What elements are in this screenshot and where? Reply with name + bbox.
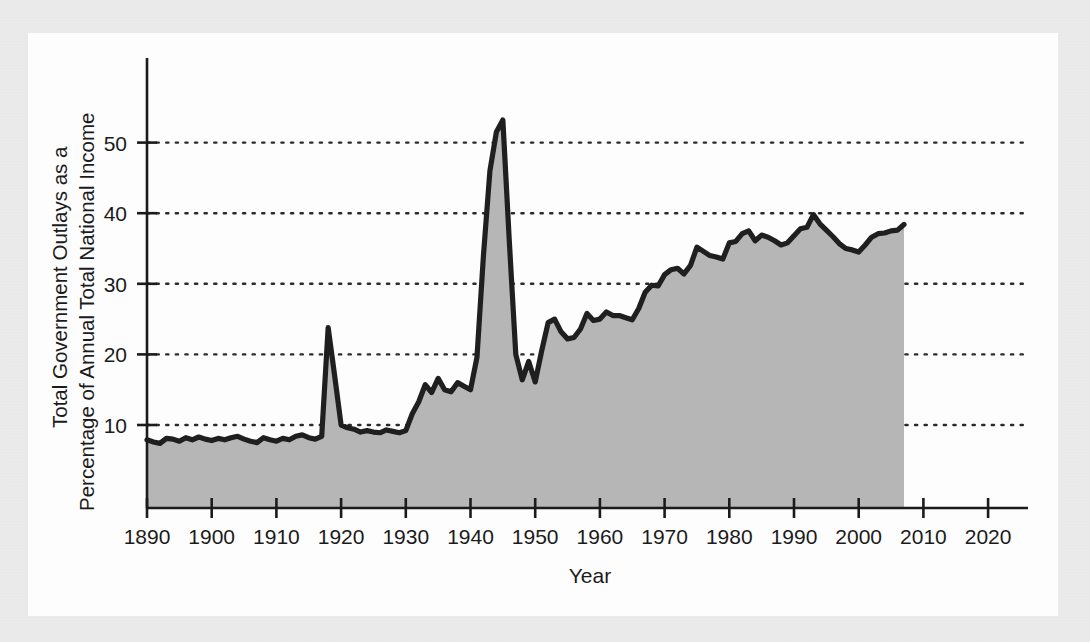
x-axis-tick-label: 1910 [253,525,300,548]
x-axis-tick-label: 1980 [706,525,753,548]
x-axis-tick-label: 2000 [835,525,882,548]
chart-panel: 1020304050 18901900191019201930194019501… [28,33,1058,616]
x-axis-tick-label: 2020 [965,525,1012,548]
y-axis-tick-labels: 1020304050 [104,132,127,437]
x-axis-tick-label: 1930 [382,525,429,548]
x-axis-tick-label: 1960 [577,525,624,548]
x-axis-tick-label: 1990 [771,525,818,548]
y-axis-title: Total Government Outlays as a Percentage… [48,113,98,512]
x-axis-title: Year [569,564,611,587]
y-axis-tick-label: 30 [104,273,127,296]
x-axis-tick-label: 1920 [318,525,365,548]
y-axis-tick-label: 50 [104,132,127,155]
series-area-fill [147,120,904,508]
x-axis-tick-label: 1970 [641,525,688,548]
x-axis-tick-labels: 1890190019101920193019401950196019701980… [124,525,1012,548]
x-axis-tick-label: 1940 [447,525,494,548]
x-axis-tick-label: 1900 [188,525,235,548]
y-axis-tick-label: 20 [104,343,127,366]
series-area-path [147,120,904,508]
figure-page: 1020304050 18901900191019201930194019501… [0,0,1090,642]
y-axis-tick-label: 10 [104,414,127,437]
x-axis-tick-label: 2010 [900,525,947,548]
y-axis-tick-label: 40 [104,202,127,225]
x-axis-tick-label: 1890 [124,525,171,548]
x-axis-tick-label: 1950 [512,525,559,548]
y-axis-title-line-2: Percentage of Annual Total National Inco… [75,113,98,512]
area-chart: 1020304050 18901900191019201930194019501… [28,33,1058,616]
y-axis-title-line-1: Total Government Outlays as a [48,146,71,428]
